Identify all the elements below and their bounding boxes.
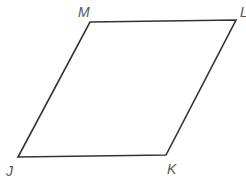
vertex-label-l: L [240,4,246,20]
vertex-label-k: K [167,161,177,177]
parallelogram-jklm [18,20,236,157]
vertex-label-j: J [5,163,14,179]
vertex-label-m: M [78,4,90,20]
parallelogram-diagram: M L K J [0,0,246,179]
